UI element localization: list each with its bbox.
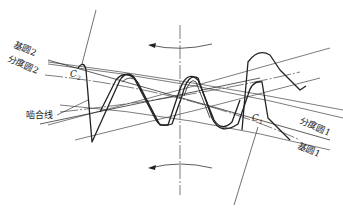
pitch-circle-2 (45, 75, 300, 140)
arrowhead-top (148, 43, 156, 48)
label-line-of-action: 啮合线 (26, 111, 53, 120)
rotation-arrow-bottom (150, 164, 212, 168)
rotation-arrow-top (150, 44, 212, 48)
gear-mesh-diagram (0, 0, 343, 211)
leader-meshing-line (57, 100, 88, 115)
leader-c2 (82, 10, 96, 64)
label-point-c1: C1 (252, 114, 263, 125)
arrowhead-bottom (148, 165, 156, 170)
label-point-c2: C2 (70, 70, 81, 81)
gear2-tooth-profile (78, 64, 240, 142)
gear1-tooth-profile (100, 74, 290, 140)
line-of-action-2 (40, 78, 260, 124)
leader-c1 (234, 127, 258, 205)
